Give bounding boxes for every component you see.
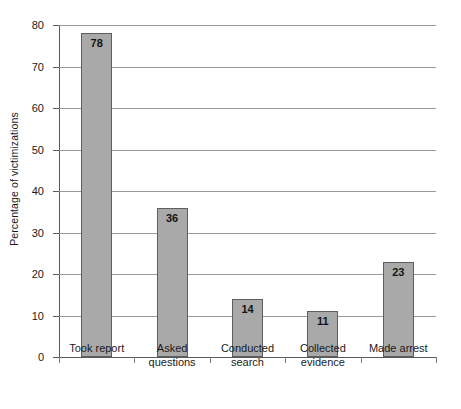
gridline xyxy=(59,233,436,234)
x-axis-label-line2: search xyxy=(210,356,285,370)
x-tick xyxy=(436,357,437,363)
y-tick-label: 10 xyxy=(32,310,44,322)
bar-value-label: 23 xyxy=(384,267,413,278)
plot-area: 01020304050607080 7836141123 xyxy=(59,25,436,357)
bar-value-label: 14 xyxy=(233,304,262,315)
bar: 78 xyxy=(81,33,112,357)
y-tick: 40 xyxy=(53,191,59,192)
x-axis-label-line1: Asked xyxy=(157,342,188,354)
x-tick xyxy=(361,357,362,363)
y-tick-label: 30 xyxy=(32,227,44,239)
x-tick xyxy=(59,357,60,363)
gridline xyxy=(59,25,436,26)
y-tick-label: 20 xyxy=(32,268,44,280)
x-axis-label: Made arrest xyxy=(361,342,436,356)
gridline xyxy=(59,67,436,68)
gridline xyxy=(59,108,436,109)
y-tick-label: 70 xyxy=(32,61,44,73)
x-axis-label: Took report xyxy=(59,342,134,356)
x-axis-label-line1: Collected xyxy=(300,342,346,354)
x-axis-label-line1: Made arrest xyxy=(369,342,428,354)
y-tick-label: 50 xyxy=(32,144,44,156)
x-axis-label-line1: Took report xyxy=(69,342,124,354)
y-tick-label: 0 xyxy=(38,351,44,363)
y-tick: 10 xyxy=(53,316,59,317)
y-tick: 70 xyxy=(53,67,59,68)
x-axis-label-line1: Conducted xyxy=(221,342,274,354)
y-tick: 30 xyxy=(53,233,59,234)
y-tick-label: 40 xyxy=(32,185,44,197)
y-axis-title: Percentage of victimizations xyxy=(0,0,28,357)
y-axis-title-text: Percentage of victimizations xyxy=(8,112,20,246)
bar-value-label: 11 xyxy=(308,316,337,327)
x-axis-label: Conductedsearch xyxy=(210,342,285,369)
x-axis-label-line2: evidence xyxy=(285,356,360,370)
bar-value-label: 78 xyxy=(82,38,111,49)
x-axis-label: Collectedevidence xyxy=(285,342,360,369)
y-tick-label: 80 xyxy=(32,19,44,31)
bar: 36 xyxy=(157,208,188,357)
y-tick: 80 xyxy=(53,25,59,26)
gridline xyxy=(59,191,436,192)
gridline xyxy=(59,150,436,151)
y-tick: 60 xyxy=(53,108,59,109)
x-axis-label-line2: questions xyxy=(134,356,209,370)
gridline xyxy=(59,274,436,275)
y-tick-label: 60 xyxy=(32,102,44,114)
y-tick: 50 xyxy=(53,150,59,151)
bar-chart: Percentage of victimizations 01020304050… xyxy=(0,0,461,409)
bar-value-label: 36 xyxy=(158,213,187,224)
x-axis-label: Askedquestions xyxy=(134,342,209,369)
y-tick: 20 xyxy=(53,274,59,275)
